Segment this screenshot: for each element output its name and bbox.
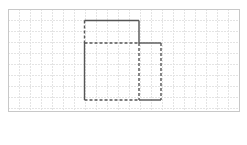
grid-border [9,10,240,112]
rectangles-figure [85,21,162,101]
grid-diagram [0,0,247,145]
grid-lines [8,9,239,111]
